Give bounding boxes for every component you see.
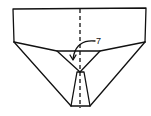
fold-arrow: [73, 41, 95, 59]
origami-diagram: 7: [0, 0, 151, 116]
inverted-triangle-flap: [57, 51, 100, 72]
step-label: 7: [96, 36, 101, 46]
